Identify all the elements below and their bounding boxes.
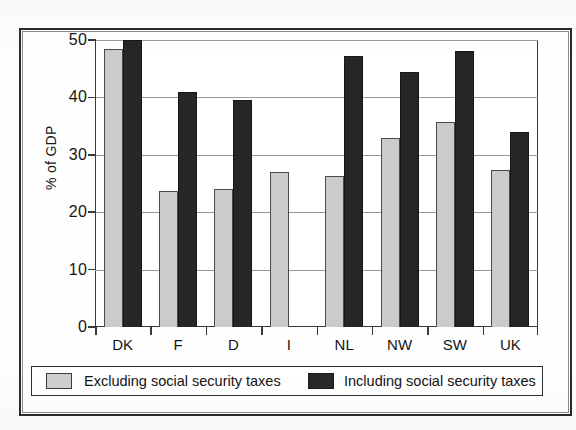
legend-entry-2[interactable]: Including social security taxes — [308, 367, 536, 395]
chart-legend: Excluding social security taxesIncluding… — [31, 366, 543, 396]
bar-NL-series1 — [325, 176, 344, 327]
bar-I-series1 — [270, 172, 289, 327]
bar-NW-series1 — [381, 138, 400, 327]
light-gray-swatch — [46, 373, 72, 389]
bar-NW-series2 — [400, 72, 419, 327]
y-tick-label-0: 0 — [27, 319, 87, 335]
bar-F-series1 — [159, 191, 178, 327]
y-tick-label-20: 20 — [27, 204, 87, 220]
x-tick-1 — [150, 327, 152, 335]
y-tick-label-30: 30 — [27, 147, 87, 163]
y-tick-label-40: 40 — [27, 89, 87, 105]
x-axis-label-NL: NL — [314, 337, 374, 352]
y-axis-title-container: % of GDP — [44, 40, 64, 327]
x-tick-5 — [372, 327, 374, 335]
bar-F-series2 — [178, 92, 197, 327]
bar-NL-series2 — [344, 56, 363, 328]
x-tick-2 — [206, 327, 208, 335]
bars-layer — [95, 40, 538, 327]
y-tick-label-50: 50 — [27, 32, 87, 48]
bar-UK-series1 — [491, 170, 510, 327]
legend-label-2: Including social security taxes — [344, 374, 536, 389]
plot-wrapper: 01020304050 DKFDINLNWSWUK — [95, 40, 538, 327]
bar-DK-series2 — [123, 40, 142, 327]
bar-DK-series1 — [104, 49, 123, 327]
x-axis-label-NW: NW — [370, 337, 430, 352]
x-axis-label-DK: DK — [93, 337, 153, 352]
x-tick-6 — [427, 327, 429, 335]
dark-swatch — [308, 373, 334, 389]
figure-root: % of GDP 01020304050 DKFDINLNWSWUK Exclu… — [0, 0, 576, 430]
x-axis-label-UK: UK — [480, 337, 540, 352]
x-axis-label-F: F — [148, 337, 208, 352]
bar-UK-series2 — [510, 132, 529, 327]
y-tick-label-10: 10 — [27, 262, 87, 278]
x-tick-3 — [261, 327, 263, 335]
x-tick-4 — [317, 327, 319, 335]
x-tick-0 — [95, 327, 97, 335]
bar-D-series1 — [214, 189, 233, 327]
bar-SW-series2 — [455, 51, 474, 327]
bar-D-series2 — [233, 100, 252, 327]
x-tick-7 — [483, 327, 485, 335]
bar-SW-series1 — [436, 122, 455, 327]
x-axis-label-D: D — [203, 337, 263, 352]
x-tick-end — [537, 327, 539, 335]
legend-label-1: Excluding social security taxes — [84, 374, 281, 389]
legend-entry-1[interactable]: Excluding social security taxes — [46, 367, 281, 395]
x-axis-label-I: I — [259, 337, 319, 352]
x-axis-label-SW: SW — [425, 337, 485, 352]
